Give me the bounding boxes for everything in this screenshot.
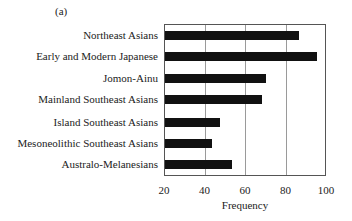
category-label: Mainland Southeast Asians: [38, 93, 158, 105]
bar: [165, 139, 212, 148]
gridline: [286, 25, 287, 175]
bar: [165, 95, 262, 104]
category-label: Early and Modern Japanese: [36, 50, 158, 62]
x-axis-label: Frequency: [222, 199, 268, 211]
category-label: Jomon-Ainu: [103, 72, 158, 84]
x-tick-label: 40: [199, 184, 210, 196]
bar: [165, 118, 220, 127]
x-tick-label: 100: [318, 184, 335, 196]
category-label: Australo-Melanesians: [61, 158, 158, 170]
bar: [165, 160, 232, 169]
bar: [165, 52, 317, 61]
category-label: Northeast Asians: [83, 29, 158, 41]
panel-label: (a): [55, 5, 67, 17]
x-tick-label: 60: [240, 184, 251, 196]
category-label: Island Southeast Asians: [54, 116, 159, 128]
plot-area: [164, 24, 326, 176]
x-tick-label: 80: [280, 184, 291, 196]
category-label: Mesoneolithic Southeast Asians: [17, 137, 158, 149]
bar: [165, 31, 299, 40]
x-tick-label: 20: [159, 184, 170, 196]
bar: [165, 74, 266, 83]
